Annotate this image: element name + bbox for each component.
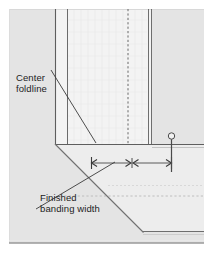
banding-corner-diagram: Center foldline Finished banding width <box>0 0 213 255</box>
vertical-band-panel <box>55 9 152 144</box>
center-foldline-label-line2: foldline <box>16 83 47 94</box>
finished-banding-width-label-line2: banding width <box>40 203 100 214</box>
center-foldline-label-line1: Center <box>16 72 45 83</box>
diagram-canvas: Center foldline Finished banding width <box>0 0 213 255</box>
pin-head-icon <box>168 133 174 139</box>
finished-banding-width-label-line1: Finished <box>40 192 77 203</box>
